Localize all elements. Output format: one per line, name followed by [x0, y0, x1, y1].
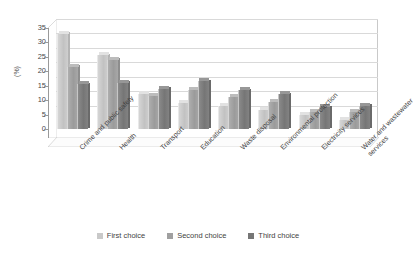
y-axis-tick-mark: [44, 129, 49, 130]
bar: [278, 94, 288, 129]
bar: [198, 81, 208, 129]
bar-face: [359, 106, 370, 129]
bar: [268, 102, 278, 129]
bar: [97, 55, 107, 129]
bar-top: [199, 78, 209, 81]
bar-top: [109, 57, 119, 60]
bar: [228, 97, 238, 129]
legend-swatch-icon: [248, 233, 254, 239]
y-axis-tick-mark: [44, 86, 49, 87]
bar-group: [258, 19, 291, 138]
bar: [107, 60, 117, 129]
bar: [117, 83, 127, 129]
bar: [218, 106, 228, 129]
bar-group: [299, 19, 332, 138]
y-axis-tick-label: 25: [24, 53, 46, 61]
bar: [359, 106, 369, 129]
legend-label: First choice: [107, 231, 145, 240]
bar: [178, 103, 188, 129]
bar: [158, 89, 168, 129]
bar-face: [278, 94, 289, 129]
y-axis-tick-label: 10: [24, 96, 46, 104]
y-axis-tick-label: 20: [24, 67, 46, 75]
y-axis-tick-mark: [44, 57, 49, 58]
y-axis-tick-labels: 35302520151050: [22, 0, 46, 258]
bar-face: [319, 107, 330, 129]
bar: [258, 110, 268, 129]
bar-top: [79, 81, 89, 84]
bar-top: [59, 31, 69, 34]
bar: [67, 67, 77, 129]
bar-group: [57, 19, 90, 138]
bar-top: [139, 91, 149, 94]
bar: [148, 96, 158, 129]
bar-top: [360, 103, 370, 106]
legend-item[interactable]: Third choice: [248, 231, 299, 240]
y-axis-tick-mark: [44, 71, 49, 72]
y-axis-tick-label: 0: [24, 125, 46, 133]
bar: [349, 112, 359, 129]
bar-top: [240, 87, 250, 90]
y-axis-line: [48, 28, 49, 138]
bar-face: [77, 84, 88, 129]
legend-label: Third choice: [258, 231, 299, 240]
bar: [188, 90, 198, 129]
y-axis-tick-label: 15: [24, 82, 46, 90]
bar-group: [138, 19, 171, 138]
plot-floor: [48, 137, 379, 147]
bar-top: [280, 91, 290, 94]
plot-area: [56, 19, 378, 138]
y-axis-tick-mark: [44, 42, 49, 43]
bar-top: [159, 86, 169, 89]
legend-label: Second choice: [177, 231, 226, 240]
bar: [238, 90, 248, 129]
bar: [77, 84, 87, 129]
y-axis-tick-label: 30: [24, 38, 46, 46]
bar-group: [178, 19, 211, 138]
chart-legend: First choiceSecond choiceThird choice: [0, 231, 396, 240]
bar: [309, 112, 319, 129]
legend-swatch-icon: [167, 233, 173, 239]
y-axis-tick-label: 5: [24, 111, 46, 119]
bar-top: [119, 80, 129, 83]
bar-face: [198, 81, 209, 129]
y-axis-tick-label: 35: [24, 24, 46, 32]
bar: [319, 107, 329, 129]
bar-top: [320, 104, 330, 107]
bar-group: [97, 19, 130, 138]
bar-top: [99, 52, 109, 55]
y-axis-title: (%): [13, 66, 20, 77]
legend-swatch-icon: [97, 233, 103, 239]
legend-item[interactable]: First choice: [97, 231, 145, 240]
y-axis-tick-mark: [44, 100, 49, 101]
bar: [57, 34, 67, 129]
legend-item[interactable]: Second choice: [167, 231, 226, 240]
bar: [339, 120, 349, 129]
y-axis-tick-mark: [44, 28, 49, 29]
y-axis-tick-mark: [44, 115, 49, 116]
bar-top: [69, 64, 79, 67]
bar: [138, 94, 148, 129]
bar-face: [117, 83, 128, 129]
bar-group: [339, 19, 372, 138]
bar-face: [238, 90, 249, 129]
bar: [299, 115, 309, 129]
bar-face: [158, 89, 169, 129]
bar-group: [218, 19, 251, 138]
bar-series-layer: [56, 19, 378, 138]
